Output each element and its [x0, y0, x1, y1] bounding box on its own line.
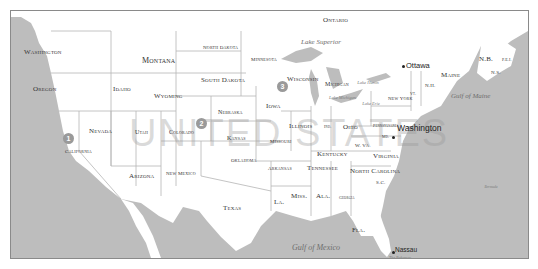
label-new-mexico: New Mexico	[166, 171, 196, 176]
label-georgia: Georgia	[339, 196, 355, 200]
label-nebraska: Nebraska	[218, 109, 243, 115]
label-lake-erie: Lake Erie	[357, 102, 385, 107]
label-indiana: Ind.	[324, 125, 331, 129]
label-oklahoma: Oklahoma	[231, 158, 257, 163]
label-oregon: Oregon	[33, 86, 56, 93]
label-missouri: Missouri	[270, 139, 292, 144]
label-utah: Utah	[135, 129, 148, 135]
label-alabama: Ala.	[316, 193, 330, 200]
label-new-york: New York	[388, 96, 413, 101]
label-california: California	[65, 149, 92, 154]
label-washington: Washington	[24, 49, 62, 56]
map-marker-3[interactable]: 3	[277, 81, 288, 92]
label-new-hampshire: N.H.	[425, 83, 436, 88]
label-iowa: Iowa	[266, 103, 281, 110]
label-minnesota: Minnesota	[251, 57, 277, 62]
label-gulf-of-mexico: Gulf of Mexico	[276, 244, 356, 252]
label-wyoming: Wyoming	[154, 93, 183, 100]
label-west-virginia: W. Va.	[355, 143, 371, 148]
label-louisiana: La.	[274, 199, 284, 206]
label-wisconsin: Wisconsin	[287, 76, 318, 83]
label-ontario: Ontario	[323, 17, 348, 24]
label-gulf-of-maine: Gulf of Maine	[451, 93, 487, 100]
label-nova-scotia: N.S.	[491, 70, 501, 75]
label-lake-superior: Lake Superior	[301, 39, 341, 46]
label-idaho: Idaho	[113, 86, 131, 93]
label-new-brunswick: N.B.	[479, 56, 493, 63]
city-washington-dc[interactable]: Washington	[397, 124, 442, 133]
label-lake-michigan: Lake Michigan	[329, 96, 351, 101]
city-dot-washington	[392, 136, 395, 139]
label-arkansas: Arkansas	[268, 166, 292, 171]
label-colorado: Colorado	[169, 129, 194, 135]
label-nevada: Nevada	[89, 128, 112, 135]
city-nassau[interactable]: Nassau	[395, 247, 417, 254]
label-tennessee: Tennessee	[307, 165, 338, 172]
label-kansas: Kansas	[227, 135, 246, 141]
label-michigan: Michigan	[325, 81, 349, 87]
label-florida: Fla.	[352, 227, 365, 234]
label-atlantic-island: Bermuda	[481, 186, 501, 190]
label-maine: Maine	[441, 72, 460, 79]
label-texas: Texas	[223, 205, 241, 212]
label-ohio: Ohio	[343, 124, 358, 131]
label-maryland: Md.	[382, 135, 389, 139]
label-mississippi: Miss.	[291, 193, 307, 200]
label-kentucky: Kentucky	[317, 151, 348, 158]
label-vermont: Vt.	[410, 92, 416, 96]
label-illinois: Illinois	[289, 123, 312, 130]
label-montana: Montana	[142, 57, 175, 65]
label-south-carolina: S.C.	[376, 180, 385, 185]
label-virginia: Virginia	[373, 153, 399, 160]
label-bahamas: The Bahamas	[383, 256, 417, 259]
label-north-dakota: North Dakota	[203, 45, 238, 50]
us-map[interactable]: UNITED STATES Ontario Washington Oregon …	[10, 10, 529, 259]
map-marker-2[interactable]: 2	[196, 118, 207, 129]
map-marker-1[interactable]: 1	[63, 133, 74, 144]
label-pennsylvania: Pennsylvania	[373, 124, 398, 128]
label-pei: P.E.I.	[502, 58, 512, 62]
label-north-carolina: North Carolina	[350, 168, 400, 175]
label-arizona: Arizona	[129, 173, 154, 180]
label-south-dakota: South Dakota	[201, 77, 245, 84]
label-lake-huron: Lake Huron	[357, 81, 379, 86]
city-ottawa[interactable]: Ottawa	[406, 62, 430, 70]
city-dot-ottawa	[402, 65, 405, 68]
